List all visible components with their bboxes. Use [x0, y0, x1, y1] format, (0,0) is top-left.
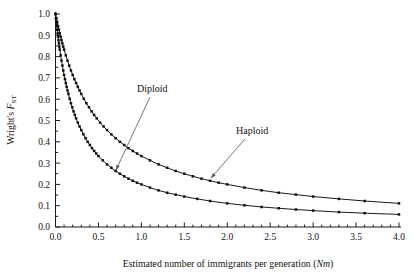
data-point	[59, 54, 62, 57]
data-point	[338, 211, 341, 214]
data-point	[209, 200, 212, 203]
data-point	[77, 121, 80, 124]
data-point	[114, 170, 117, 173]
data-point	[132, 150, 135, 153]
x-axis-title: Estimated number of immigrants per gener…	[123, 258, 334, 270]
haploid-label-leader-line	[211, 139, 245, 178]
data-point	[93, 114, 96, 117]
data-point	[84, 137, 87, 140]
data-point	[398, 202, 401, 205]
data-point	[56, 29, 59, 32]
data-point	[136, 152, 139, 155]
data-point	[119, 141, 122, 144]
data-point	[65, 82, 68, 85]
data-point	[127, 177, 129, 180]
fst-line-chart: 0.00.10.20.30.40.50.60.70.80.91.0 0.00.5…	[0, 0, 414, 273]
data-point	[56, 32, 59, 35]
data-point	[174, 193, 177, 196]
data-point	[56, 25, 59, 28]
data-point	[200, 177, 203, 180]
data-point	[123, 144, 126, 147]
data-point	[196, 198, 199, 201]
data-point	[66, 89, 69, 92]
data-point	[243, 186, 246, 189]
data-point	[61, 42, 64, 45]
data-point	[75, 117, 78, 120]
data-point-markers	[54, 13, 400, 216]
diploid-label-arrow-head	[116, 165, 120, 170]
data-point	[58, 42, 61, 45]
data-point	[174, 170, 177, 173]
data-point	[59, 36, 62, 39]
data-point	[83, 98, 86, 101]
y-tick-label: 1.0	[38, 9, 50, 19]
data-point	[106, 163, 109, 166]
y-tick-label: 0.4	[38, 137, 50, 147]
data-point	[312, 209, 315, 212]
data-point	[157, 189, 160, 192]
data-point	[127, 147, 129, 150]
data-point	[166, 191, 169, 194]
data-point	[64, 78, 66, 81]
data-point	[183, 195, 186, 198]
data-point	[243, 204, 246, 207]
data-point	[157, 163, 160, 166]
data-point	[99, 121, 102, 124]
data-point	[67, 93, 70, 96]
data-point	[72, 110, 75, 113]
x-tick-label: 3.0	[307, 232, 319, 242]
data-point	[70, 102, 73, 105]
data-point	[132, 180, 135, 183]
data-point	[60, 39, 63, 42]
data-point	[77, 86, 80, 89]
data-point	[85, 102, 88, 105]
data-point	[55, 21, 58, 24]
data-point	[140, 183, 143, 186]
data-point	[363, 200, 366, 203]
data-point	[86, 141, 89, 144]
data-point	[63, 48, 65, 51]
x-axis-ticks	[56, 223, 400, 228]
data-point	[93, 150, 96, 153]
y-tick-label: 0.6	[38, 95, 50, 105]
data-point	[338, 198, 341, 201]
y-tick-label: 0.8	[38, 52, 50, 62]
data-point	[149, 159, 152, 162]
x-tick-label: 1.0	[135, 232, 147, 242]
x-tick-label: 0.0	[50, 232, 62, 242]
data-point	[106, 129, 109, 132]
data-point	[312, 195, 315, 198]
data-point	[95, 117, 98, 120]
x-tick-label: 2.0	[221, 232, 233, 242]
chart-figure: 0.00.10.20.30.40.50.60.70.80.91.0 0.00.5…	[0, 0, 414, 273]
data-point	[70, 69, 73, 72]
diploid-label-leader-line	[116, 97, 150, 170]
data-point	[295, 193, 298, 196]
y-tick-label: 0.2	[38, 180, 50, 190]
data-point	[62, 45, 64, 48]
data-point	[183, 173, 186, 176]
y-tick-label: 0.7	[38, 73, 50, 83]
y-tick-label: 0.9	[38, 31, 50, 41]
data-point	[66, 59, 69, 62]
data-point	[363, 212, 366, 215]
data-point	[140, 155, 143, 158]
data-point	[166, 167, 169, 170]
x-tick-label: 2.5	[264, 232, 276, 242]
data-point	[54, 13, 57, 16]
data-point	[59, 32, 62, 35]
data-point	[295, 208, 298, 211]
data-point	[57, 36, 60, 39]
data-point	[149, 186, 152, 189]
data-point	[65, 86, 68, 89]
data-point	[65, 54, 68, 57]
data-point	[89, 144, 92, 147]
data-point	[80, 129, 83, 132]
data-point	[62, 69, 64, 72]
data-point	[136, 181, 139, 184]
data-point	[82, 133, 85, 136]
data-point	[88, 106, 91, 109]
data-point	[119, 173, 122, 176]
data-point	[58, 45, 61, 48]
x-tick-label: 3.5	[350, 232, 362, 242]
